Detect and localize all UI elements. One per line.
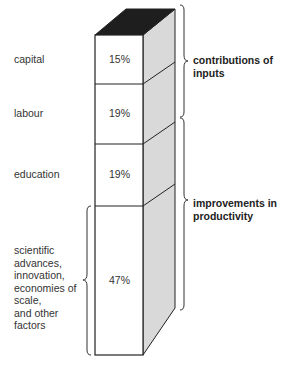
group-label-productivity: improvements in productivity: [193, 197, 277, 222]
label-line: advances,: [14, 257, 76, 270]
segment-label-capital: capital: [14, 53, 44, 66]
label-line: scientific: [14, 244, 76, 257]
brace-productivity: [180, 118, 188, 310]
brace-inputs: [180, 5, 188, 117]
bar-side-face: [143, 9, 175, 355]
group-line: productivity: [193, 210, 277, 223]
label-line: factors: [14, 319, 76, 332]
group-line: inputs: [193, 67, 273, 80]
segment-value-education: 19%: [95, 168, 144, 180]
segment-label-education: education: [14, 168, 60, 181]
bar-front-face: [95, 35, 143, 355]
segment-value-capital: 15%: [95, 53, 144, 65]
label-line: economies of: [14, 282, 76, 295]
group-line: contributions of: [193, 54, 273, 67]
segment-label-other: scientific advances, innovation, economi…: [14, 244, 76, 332]
group-label-inputs: contributions of inputs: [193, 54, 273, 79]
label-line: and other: [14, 307, 76, 320]
brace-other-factors: [83, 206, 91, 355]
label-line: scale,: [14, 294, 76, 307]
segment-label-labour: labour: [14, 107, 43, 120]
segment-value-other: 47%: [95, 274, 144, 286]
group-line: improvements in: [193, 197, 277, 210]
segment-value-labour: 19%: [95, 107, 144, 119]
label-line: innovation,: [14, 269, 76, 282]
